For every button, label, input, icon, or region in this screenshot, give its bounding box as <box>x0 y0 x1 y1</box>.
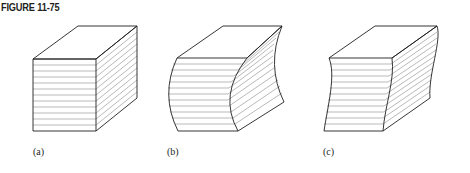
figure-drawing <box>0 0 470 173</box>
side-face-layers-c <box>383 32 437 124</box>
panel-label-a: (a) <box>33 146 44 157</box>
panel-label-c: (c) <box>323 146 334 157</box>
block-a <box>33 26 137 131</box>
side-face-layers-b <box>228 32 282 124</box>
front-face-layers-c <box>324 64 391 124</box>
panel-label-b: (b) <box>167 146 179 157</box>
block-b <box>168 26 284 131</box>
block-c <box>324 26 438 131</box>
front-face-layers-a <box>33 65 96 125</box>
side-face-layers-a <box>96 32 137 125</box>
